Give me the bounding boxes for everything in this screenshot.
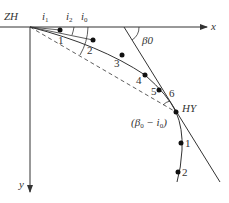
- y-axis-label: y: [18, 178, 24, 190]
- spiral-label-5: 5: [151, 85, 157, 97]
- spiral-label-4: 4: [136, 74, 142, 86]
- hy-label: HY: [181, 102, 198, 114]
- circular-point-1: [179, 141, 184, 146]
- diagram-canvas: x y β0 ZH i1 i2 i0 1 2 3 4 5 6 HY (β0 − …: [0, 0, 229, 203]
- zh-label: ZH: [4, 10, 19, 22]
- beta0-label: β0: [141, 34, 153, 46]
- hy-angle-arc: [163, 101, 170, 105]
- i0-label: i0: [81, 10, 88, 24]
- circular-point-2: [176, 170, 181, 175]
- spiral-label-2: 2: [87, 44, 93, 56]
- spiral-label-3: 3: [114, 57, 120, 69]
- circular-label-2: 2: [182, 166, 188, 178]
- spiral-point-5: [157, 88, 162, 93]
- beta-minus-i-label: (β0 − i0): [131, 116, 167, 130]
- i2-label: i2: [66, 10, 73, 24]
- spiral-curve: [30, 27, 182, 182]
- beta0-arc: [132, 27, 139, 40]
- hy-point: [174, 110, 179, 115]
- spiral-point-1: [58, 28, 63, 33]
- spiral-diagram: x y β0 ZH i1 i2 i0 1 2 3 4 5 6 HY (β0 − …: [0, 0, 229, 203]
- spiral-point-2: [91, 38, 96, 43]
- x-axis-label: x: [210, 20, 216, 32]
- spiral-point-4: [143, 73, 148, 78]
- long-chord: [30, 27, 176, 112]
- i1-label: i1: [42, 10, 49, 24]
- spiral-point-3: [120, 53, 125, 58]
- circular-label-1: 1: [185, 137, 191, 149]
- spiral-label-1: 1: [58, 34, 64, 46]
- spiral-label-6: 6: [169, 87, 175, 99]
- i2-arc: [72, 27, 74, 35]
